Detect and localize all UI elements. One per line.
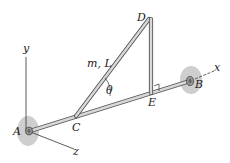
- bearing-a-hub: [26, 127, 33, 135]
- bearing-b-hub: [187, 77, 194, 86]
- bent-rod-diagram: y z x A B C D E m, L θ: [0, 0, 230, 163]
- label-x: x: [214, 61, 221, 74]
- label-e: E: [147, 96, 156, 109]
- label-d: D: [136, 11, 146, 24]
- label-theta: θ: [106, 84, 113, 97]
- label-b: B: [194, 78, 203, 91]
- label-y: y: [22, 42, 30, 55]
- label-c: C: [72, 121, 81, 134]
- label-mass-length: m, L: [87, 57, 112, 70]
- label-a: A: [12, 125, 21, 138]
- label-z: z: [72, 145, 79, 158]
